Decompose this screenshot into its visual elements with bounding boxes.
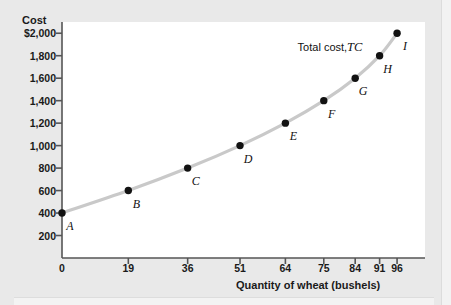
total-cost-curve-path bbox=[62, 33, 397, 213]
data-point-h bbox=[376, 52, 383, 59]
chart-svg bbox=[0, 0, 451, 305]
data-point-a bbox=[58, 209, 65, 216]
data-point-g bbox=[351, 74, 358, 81]
data-point-i bbox=[393, 30, 400, 37]
data-point-d bbox=[236, 142, 243, 149]
data-point-f bbox=[320, 97, 327, 104]
data-point-e bbox=[282, 119, 289, 126]
total-cost-curve bbox=[62, 33, 397, 213]
data-point-group bbox=[58, 30, 400, 217]
data-point-b bbox=[125, 187, 132, 194]
data-point-c bbox=[184, 164, 191, 171]
cost-curve-figure: Cost Quantity of wheat (bushels) Total c… bbox=[0, 0, 451, 305]
